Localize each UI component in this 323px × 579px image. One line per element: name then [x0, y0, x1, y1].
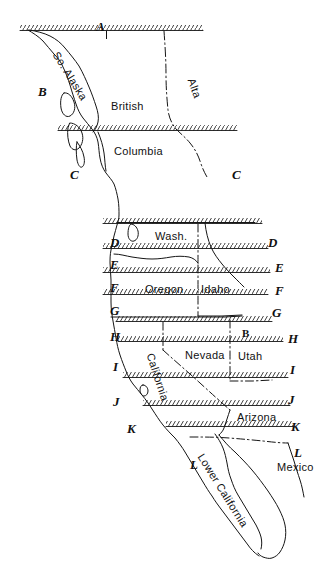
grid-letter-right-f: F — [275, 284, 284, 297]
hatched-band — [123, 372, 288, 378]
grid-letter-left-i: I — [113, 360, 118, 373]
place-label-utah: Utah — [238, 351, 262, 362]
grid-letter-left-d: D — [110, 236, 119, 249]
hatched-band — [103, 243, 268, 249]
grid-letter-left-k: K — [127, 422, 136, 435]
hatched-band — [103, 289, 268, 295]
hatched-band — [20, 25, 203, 31]
hatched-band — [58, 125, 237, 131]
grid-letter-right-k: K — [291, 420, 300, 433]
place-label-nevada: Nevada — [185, 350, 225, 361]
boundary-wash-oregon — [114, 254, 198, 263]
grid-letter-right-h: H — [288, 332, 298, 345]
hatched-band — [118, 336, 283, 342]
grid-tick-a — [106, 31, 107, 39]
grid-letter-left-j: J — [113, 395, 120, 408]
boundary-alta — [164, 31, 207, 177]
grid-letter-left-b: B — [38, 85, 47, 98]
place-label-oregon: Oregon — [145, 284, 184, 295]
boundary-utah-arizona — [230, 380, 272, 381]
place-label-columbia: Columbia — [114, 146, 163, 157]
grid-letter-top-a: A — [96, 20, 105, 33]
place-label-wash: Wash. — [155, 231, 187, 242]
grid-letter-right-e: E — [275, 261, 284, 274]
grid-letter-right-d: D — [268, 236, 277, 249]
grid-letter-right-j: J — [288, 393, 295, 406]
grid-letter-right-g: G — [272, 306, 281, 319]
grid-letter-left-e: E — [110, 258, 119, 271]
hatched-band — [103, 267, 270, 273]
boundary-us-mexico — [190, 437, 288, 443]
grid-marker-b-small: B — [242, 328, 249, 339]
map-canvas: ABCDEFGHIJKLCDEFGHIJKLBSo. AlaskaBritish… — [0, 0, 323, 579]
grid-letter-left-h: H — [110, 330, 120, 343]
grid-letter-left-f: F — [110, 281, 119, 294]
boundary-idaho-south — [198, 315, 242, 316]
island-sanfrancisco-bay — [140, 385, 148, 396]
grid-letter-right-c: C — [232, 168, 241, 181]
place-label-mexico: Mexico — [277, 462, 314, 473]
place-label-british: British — [111, 101, 144, 112]
boundary-idaho-montana — [205, 223, 244, 287]
place-label-idaho: Idaho — [201, 284, 230, 295]
island-queen-charlotte — [61, 93, 75, 117]
grid-letter-left-c: C — [70, 168, 79, 181]
grid-letter-right-l: L — [294, 446, 302, 459]
island-puget — [128, 224, 138, 241]
boundary-alaska-panhandle — [29, 30, 98, 132]
hatched-band — [143, 400, 290, 406]
grid-letter-right-i: I — [290, 363, 295, 376]
place-label-arizona: Arizona — [237, 412, 276, 423]
grid-letter-left-g: G — [110, 304, 119, 317]
